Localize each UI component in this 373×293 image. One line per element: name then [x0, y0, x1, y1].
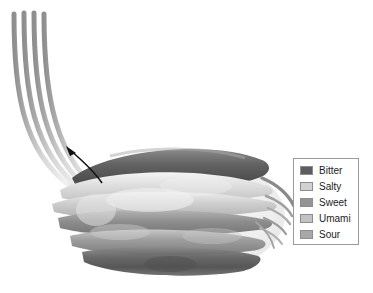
legend: Bitter Salty Sweet Umami Sour: [293, 158, 359, 245]
legend-swatch-bitter: [300, 166, 313, 175]
legend-swatch-umami: [300, 214, 313, 223]
legend-swatch-sweet: [300, 198, 313, 207]
legend-item-sour: Sour: [300, 227, 358, 242]
taste-bud-illustration: [0, 0, 373, 293]
legend-swatch-sour: [300, 230, 313, 239]
taste-bud-body: [52, 149, 285, 276]
legend-item-umami: Umami: [300, 211, 358, 226]
legend-item-sweet: Sweet: [300, 195, 358, 210]
legend-label-salty: Salty: [319, 182, 341, 192]
legend-item-salty: Salty: [300, 179, 358, 194]
legend-item-bitter: Bitter: [300, 163, 358, 178]
legend-label-bitter: Bitter: [319, 166, 342, 176]
legend-label-umami: Umami: [319, 214, 351, 224]
legend-label-sour: Sour: [319, 230, 340, 240]
taste-bud-figure: Bitter Salty Sweet Umami Sour: [0, 0, 373, 293]
legend-swatch-salty: [300, 182, 313, 191]
legend-label-sweet: Sweet: [319, 198, 347, 208]
